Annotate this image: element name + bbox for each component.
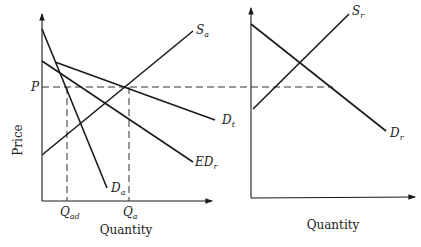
q-ad-label: Qad (60, 205, 80, 221)
demand-curve-a (42, 29, 107, 188)
price-label: P (30, 80, 40, 94)
y-axis-label: Price (11, 124, 25, 155)
supply-r-label: Sr (352, 4, 365, 20)
right-panel: Sr Dr Quantity (251, 4, 415, 232)
supply-curve-a (42, 31, 193, 155)
supply-curve-r (253, 14, 349, 109)
left-panel: Price P Sa Da EDr Dt Qad Qa Quantity (11, 14, 333, 237)
excess-demand-curve-r (42, 61, 193, 162)
demand-a-label: Da (110, 181, 126, 197)
total-demand-t-label: Dt (221, 113, 236, 129)
q-a-label: Qa (123, 205, 138, 221)
left-x-axis-label: Quantity (100, 223, 153, 237)
supply-a-label: Sa (196, 23, 209, 39)
excess-demand-r-label: EDr (194, 155, 218, 171)
total-demand-curve-t (55, 62, 215, 120)
right-x-axis-label: Quantity (307, 218, 360, 232)
demand-r-label: Dr (389, 126, 405, 142)
demand-curve-r (251, 24, 386, 131)
supply-demand-diagram: Price P Sa Da EDr Dt Qad Qa Quantity Sr … (0, 0, 421, 247)
right-x-axis (251, 197, 415, 198)
